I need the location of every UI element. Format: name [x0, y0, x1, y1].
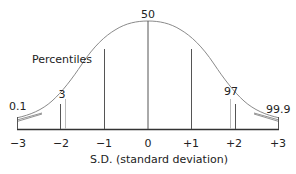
left-tail-line	[17, 114, 42, 122]
x-tick-minus1: −1	[96, 138, 112, 150]
percentile-97-label: 97	[224, 86, 238, 98]
percentile-0-1-label: 0.1	[9, 101, 27, 113]
x-tick-plus3: +3	[270, 138, 286, 150]
x-tick-minus2: −2	[53, 138, 69, 150]
x-tick-plus1: +1	[183, 138, 199, 150]
percentile-99-9-label: 99.9	[266, 104, 291, 116]
x-tick-0: 0	[145, 138, 152, 150]
percentiles-label: Percentiles	[32, 54, 92, 66]
x-tick-plus2: +2	[226, 138, 242, 150]
x-tick-minus3: −3	[10, 138, 26, 150]
percentile-3-label: 3	[59, 89, 66, 101]
percentile-50-label: 50	[141, 9, 155, 21]
normal-distribution-chart: Percentiles 50 3 97 0.1 99.9 −3 −2 −1 0 …	[0, 0, 296, 174]
x-axis-label: S.D. (standard deviation)	[90, 154, 228, 166]
